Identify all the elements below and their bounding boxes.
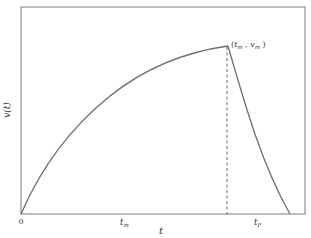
x-axis-label: t — [159, 225, 164, 236]
plot-frame — [21, 7, 305, 214]
x-tick-tm: tm — [120, 217, 129, 228]
curve-falling — [228, 46, 290, 214]
peak-label: (tm , vm ) — [231, 40, 266, 50]
x-tick-zero: 0 — [18, 217, 23, 226]
velocity-chart: (tm , vm ) v(t) 0 tm tF t — [0, 0, 311, 238]
x-tick-tf: tF — [254, 217, 261, 228]
curve-rising — [21, 46, 228, 214]
y-axis-label: v(t) — [2, 102, 12, 118]
